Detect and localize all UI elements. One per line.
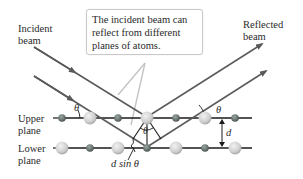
- callout-line-3: planes of atoms.: [92, 39, 187, 52]
- d-label: d: [226, 127, 231, 139]
- lower-plane-label: Lower plane: [18, 143, 45, 167]
- reflected-beams: [147, 44, 266, 147]
- theta-left-label: θ: [74, 102, 79, 114]
- callout-box: The incident beam can reflect from diffe…: [86, 9, 203, 55]
- upper-plane-label: Upper plane: [18, 113, 44, 137]
- bragg-diffraction-diagram: The incident beam can reflect from diffe…: [0, 0, 303, 179]
- d-sin-theta-label: d sin θ: [111, 158, 139, 170]
- theta-right-label: θ: [216, 104, 221, 116]
- theta-center-label: θ: [143, 125, 148, 137]
- callout-text: The incident beam can reflect from diffe…: [92, 13, 187, 52]
- incident-beam-label: Incident beam: [18, 23, 52, 47]
- callout-line-1: The incident beam can: [92, 13, 187, 26]
- incident-beams: [34, 47, 147, 147]
- callout-line-2: reflect from different: [92, 26, 187, 39]
- reflected-beam-label: Reflected beam: [243, 19, 283, 43]
